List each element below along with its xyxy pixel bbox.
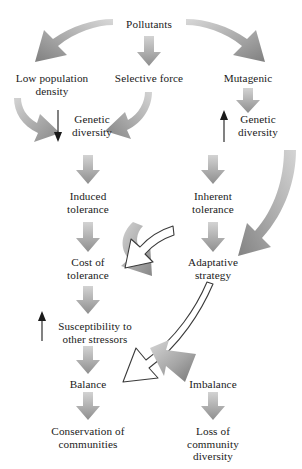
node-balance: Balance xyxy=(70,378,107,391)
node-low-population-density: Low population density xyxy=(16,72,89,97)
node-susceptibility-other-stressors: Susceptibility to other stressors xyxy=(58,320,132,345)
node-pollutants: Pollutants xyxy=(126,18,172,31)
edge-pollutants-to-mutagenic xyxy=(186,19,265,62)
edge-genetic-diversity-to-induced-tolerance xyxy=(76,155,100,184)
node-cost-of-tolerance: Cost of tolerance xyxy=(67,256,109,281)
node-loss-of-community-diversity: Loss of community diversity xyxy=(169,425,258,463)
flow-diagram: Pollutants Low population density Select… xyxy=(0,0,302,469)
node-adaptative-strategy: Adaptative strategy xyxy=(188,256,238,281)
node-conservation-of-communities: Conservation of communities xyxy=(51,425,124,450)
edge-inherent-tolerance-sweep-to-adaptative-strategy xyxy=(238,150,296,256)
edge-low-population-density-to-genetic-diversity xyxy=(14,98,60,142)
edge-mutagenic-to-genetic-diversity xyxy=(236,88,260,113)
marker-susceptibility-increase xyxy=(38,311,46,341)
edge-balance-to-conservation xyxy=(76,392,100,420)
edge-pollutants-to-low-population-density xyxy=(35,19,113,62)
edge-imbalance-to-loss xyxy=(201,392,225,420)
flow-diagram-canvas xyxy=(0,0,302,469)
edge-inherent-tolerance-to-adaptative-strategy xyxy=(201,222,225,252)
edge-susceptibility-to-balance xyxy=(76,346,100,374)
node-mutagenic: Mutagenic xyxy=(224,72,273,85)
node-selective-force: Selective force xyxy=(115,72,183,85)
edge-selective-force-to-genetic-diversity xyxy=(105,92,152,139)
edge-genetic-diversity-to-inherent-tolerance xyxy=(201,155,225,184)
edge-pollutants-to-selective-force xyxy=(137,36,161,66)
node-inherent-tolerance: Inherent tolerance xyxy=(192,190,234,215)
marker-genetic-diversity-increase xyxy=(220,110,228,142)
node-imbalance: Imbalance xyxy=(189,378,237,391)
node-genetic-diversity-increase: Genetic diversity xyxy=(238,113,278,138)
edge-induced-tolerance-to-cost-of-tolerance xyxy=(76,222,100,252)
node-induced-tolerance: Induced tolerance xyxy=(67,190,109,215)
node-genetic-diversity-decrease: Genetic diversity xyxy=(72,113,112,138)
marker-genetic-diversity-decrease xyxy=(54,110,62,142)
edge-cost-of-tolerance-to-susceptibility xyxy=(76,286,100,314)
